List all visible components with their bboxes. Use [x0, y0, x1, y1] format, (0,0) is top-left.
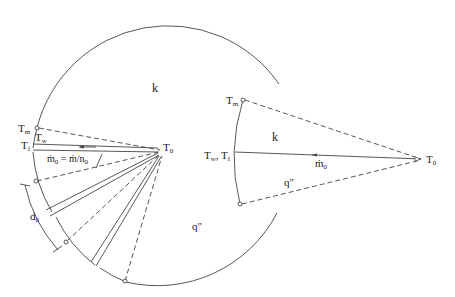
dashed-node4-t0 — [125, 156, 162, 281]
channel3-wall-b — [96, 157, 161, 266]
label-tf: Tf — [21, 139, 31, 153]
right-label-q: q" — [284, 176, 294, 188]
label-q: q" — [192, 220, 202, 232]
right-center-line — [235, 152, 421, 159]
node-2 — [34, 179, 38, 183]
right-label-twf: Tw, Tf — [204, 149, 231, 163]
right-node-tm — [241, 98, 245, 102]
d0-tick-bottom — [53, 246, 62, 252]
right-dashed-bottom — [242, 160, 421, 204]
outer-arc-top — [37, 26, 279, 128]
dashed-node2-t0 — [37, 152, 159, 181]
diagram-canvas: k q" Tm Tw Tf T0 ṁ0 = ṁ/n0 d0 k q" Tm Tw… — [0, 0, 455, 297]
right-label-tm: Tm — [226, 94, 239, 108]
right-node-bottom — [238, 202, 242, 206]
label-mdot-eq: ṁ0 = ṁ/n0 — [47, 153, 88, 166]
channel3-wall-a — [91, 156, 159, 262]
label-d0: d0 — [30, 210, 40, 224]
right-panel: k q" Tm Tw, Tf T0 ṁ0 — [204, 94, 437, 206]
left-panel: k q" Tm Tw Tf T0 ṁ0 = ṁ/n0 d0 — [18, 26, 279, 286]
node-4 — [123, 279, 127, 283]
channel2-wall-b — [50, 155, 159, 216]
right-label-mdot: ṁ0 — [315, 157, 328, 171]
dashed-tm-t0 — [39, 128, 160, 150]
label-t0: T0 — [163, 141, 174, 155]
node-3 — [64, 240, 68, 244]
label-tm: Tm — [18, 122, 31, 136]
label-tw: Tw — [35, 131, 48, 145]
right-label-t0: T0 — [426, 153, 437, 167]
channel-wall-bottom — [33, 150, 158, 152]
right-t0-arrow — [415, 157, 421, 161]
arc-lower-seg — [56, 217, 95, 265]
label-k: k — [152, 81, 158, 95]
right-label-k: k — [272, 130, 278, 144]
diagram-svg: k q" Tm Tw Tf T0 ṁ0 = ṁ/n0 d0 k q" Tm Tw… — [0, 0, 455, 297]
arc-bottom-seg — [100, 268, 126, 282]
node-tm — [35, 126, 39, 130]
